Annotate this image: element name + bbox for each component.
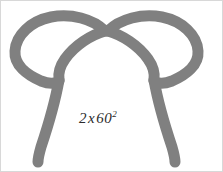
- figure-drawing: [1, 1, 223, 172]
- right-looped-stem: [108, 16, 198, 162]
- figure-canvas: 2x602: [0, 0, 223, 172]
- left-loop-inner-fold: [59, 31, 105, 80]
- right-loop-inner-fold: [108, 31, 154, 80]
- right-stem: [154, 80, 175, 162]
- left-stem: [38, 80, 59, 162]
- left-looped-stem: [15, 16, 105, 162]
